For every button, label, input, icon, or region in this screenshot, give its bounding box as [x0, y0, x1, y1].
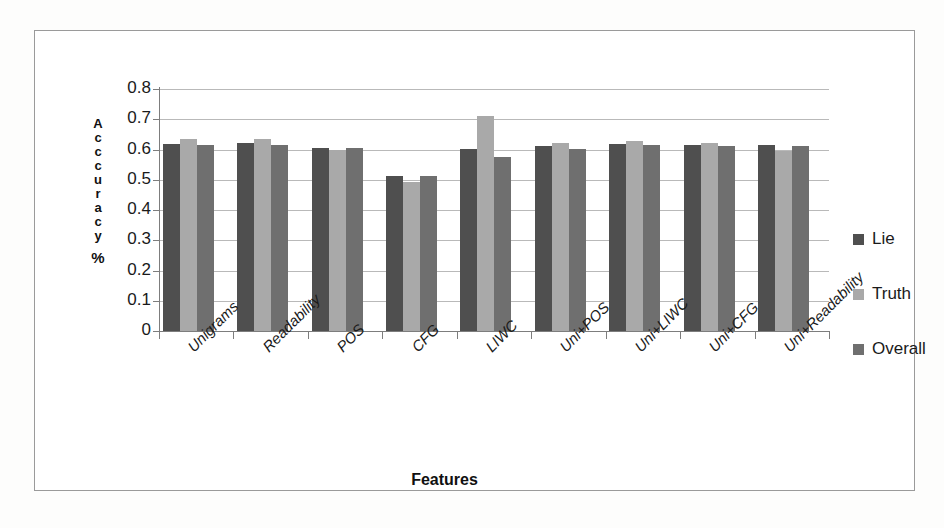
bar-lie[interactable] — [758, 145, 775, 331]
legend-swatch-icon — [853, 289, 864, 300]
y-axis-tick — [153, 301, 160, 302]
bar-truth[interactable] — [477, 116, 494, 331]
bar-lie[interactable] — [460, 149, 477, 331]
x-axis-tick — [755, 331, 756, 339]
legend-item-truth[interactable]: Truth — [853, 284, 944, 304]
legend-label: Overall — [872, 339, 926, 359]
y-axis-tick-label: 0.3 — [109, 229, 151, 249]
legend-label: Lie — [872, 229, 895, 249]
x-axis-tick — [457, 331, 458, 339]
bar-overall[interactable] — [643, 145, 660, 331]
bar-group — [457, 89, 531, 331]
y-axis-tick-label: 0.5 — [109, 169, 151, 189]
x-axis-title: Features — [35, 471, 914, 489]
bar-truth[interactable] — [775, 151, 792, 331]
bar-lie[interactable] — [386, 176, 403, 331]
bar-lie[interactable] — [535, 146, 552, 331]
bar-truth[interactable] — [701, 143, 718, 331]
bar-overall[interactable] — [569, 149, 586, 331]
bar-overall[interactable] — [346, 148, 363, 331]
bar-overall[interactable] — [271, 145, 288, 331]
y-axis-tick-label: 0 — [109, 320, 151, 340]
x-axis-tick — [382, 331, 383, 339]
bar-group — [233, 89, 307, 331]
y-axis-tick — [153, 210, 160, 211]
bar-lie[interactable] — [237, 143, 254, 331]
y-axis-tick — [153, 150, 160, 151]
y-axis-tick — [153, 89, 160, 90]
bar-truth[interactable] — [329, 150, 346, 331]
x-axis-title-text: Features — [411, 471, 478, 489]
bar-truth[interactable] — [403, 182, 420, 331]
bar-overall[interactable] — [420, 176, 437, 331]
chart-frame: Acccuracy% 0.80.70.60.50.40.30.20.10 Uni… — [34, 30, 915, 491]
bar-group — [308, 89, 382, 331]
bar-group — [755, 89, 829, 331]
legend-item-overall[interactable]: Overall — [853, 339, 944, 359]
bar-group — [159, 89, 233, 331]
y-axis-tick-label: 0.6 — [109, 139, 151, 159]
bar-overall[interactable] — [494, 157, 511, 331]
bar-overall[interactable] — [792, 146, 809, 331]
y-axis-tick-label: 0.2 — [109, 260, 151, 280]
y-axis-tick-label: 0.7 — [109, 108, 151, 128]
bar-lie[interactable] — [163, 144, 180, 331]
x-axis-tick — [531, 331, 532, 339]
x-axis-tick — [308, 331, 309, 339]
y-axis-tick — [153, 271, 160, 272]
y-axis-tick — [153, 119, 160, 120]
chart-page: Acccuracy% 0.80.70.60.50.40.30.20.10 Uni… — [0, 0, 944, 528]
bar-lie[interactable] — [609, 144, 626, 331]
x-axis-tick — [233, 331, 234, 339]
bar-truth[interactable] — [180, 139, 197, 331]
legend-swatch-icon — [853, 344, 864, 355]
bar-overall[interactable] — [197, 145, 214, 331]
bar-group — [531, 89, 605, 331]
plot-area — [159, 89, 829, 331]
chart-legend: LieTruthOverall — [853, 229, 944, 394]
bar-truth[interactable] — [552, 143, 569, 331]
y-axis-tick-label: 0.8 — [109, 78, 151, 98]
legend-item-lie[interactable]: Lie — [853, 229, 944, 249]
bar-truth[interactable] — [254, 139, 271, 331]
y-axis-tick — [153, 240, 160, 241]
bar-group — [382, 89, 456, 331]
bar-truth[interactable] — [626, 141, 643, 331]
y-axis-tick — [153, 180, 160, 181]
x-axis-tick — [680, 331, 681, 339]
x-axis-tick — [606, 331, 607, 339]
y-axis-tick-labels: 0.80.70.60.50.40.30.20.10 — [101, 31, 151, 490]
y-axis-tick-label: 0.4 — [109, 199, 151, 219]
bar-group — [606, 89, 680, 331]
x-axis-tick — [829, 331, 830, 339]
legend-swatch-icon — [853, 234, 864, 245]
bar-overall[interactable] — [718, 146, 735, 331]
x-axis-tick — [159, 331, 160, 339]
bar-group — [680, 89, 754, 331]
y-axis-tick-label: 0.1 — [109, 290, 151, 310]
legend-label: Truth — [872, 284, 911, 304]
